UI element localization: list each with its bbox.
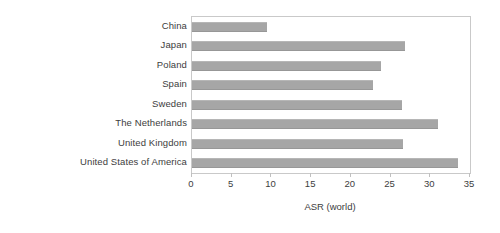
plot-area: [191, 16, 471, 174]
x-tick-mark: [191, 173, 192, 177]
x-tick-mark: [350, 173, 351, 177]
x-tick-label: 20: [345, 178, 356, 189]
category-label: Poland: [5, 59, 187, 70]
bar: [192, 41, 405, 51]
bar: [192, 80, 373, 90]
x-tick-mark: [231, 173, 232, 177]
bar: [192, 61, 381, 71]
x-tick-mark: [390, 173, 391, 177]
bar: [192, 22, 267, 32]
x-axis: 05101520253035: [191, 173, 469, 193]
x-tick-label: 25: [384, 178, 395, 189]
x-tick-label: 10: [265, 178, 276, 189]
category-label: United States of America: [5, 156, 187, 167]
bar: [192, 139, 403, 149]
category-label: Japan: [5, 39, 187, 50]
x-tick-mark: [310, 173, 311, 177]
category-label: Sweden: [5, 98, 187, 109]
bar: [192, 158, 458, 168]
bar: [192, 100, 402, 110]
x-tick-label: 15: [305, 178, 316, 189]
bar-chart-figure: ChinaJapanPolandSpainSwedenThe Netherlan…: [0, 0, 500, 233]
bar: [192, 119, 438, 129]
x-tick-label: 30: [424, 178, 435, 189]
bars-layer: [192, 17, 470, 173]
x-axis-title: ASR (world): [191, 201, 469, 212]
category-label: Spain: [5, 78, 187, 89]
category-axis: ChinaJapanPolandSpainSwedenThe Netherlan…: [5, 16, 187, 172]
x-tick-label: 35: [464, 178, 475, 189]
category-label: The Netherlands: [5, 117, 187, 128]
category-label: United Kingdom: [5, 137, 187, 148]
x-tick-mark: [469, 173, 470, 177]
x-tick-mark: [429, 173, 430, 177]
category-label: China: [5, 20, 187, 31]
x-tick-mark: [270, 173, 271, 177]
x-tick-label: 5: [228, 178, 233, 189]
chart-screenshot: ChinaJapanPolandSpainSwedenThe Netherlan…: [0, 0, 500, 233]
x-tick-label: 0: [188, 178, 193, 189]
